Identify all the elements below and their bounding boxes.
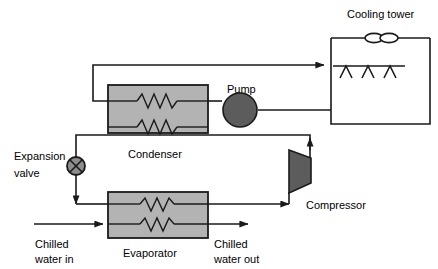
chilled-water-out-label-line2: water out <box>213 253 259 265</box>
cooling-tower-body <box>331 38 430 124</box>
condenser <box>108 85 208 134</box>
chilled-water-out-label-line1: Chilled <box>214 238 248 250</box>
expansion-valve-label-line1: Expansion <box>14 150 65 162</box>
cooling-tower-label: Cooling tower <box>347 8 415 20</box>
pump-symbol <box>223 93 257 127</box>
pump <box>223 93 257 127</box>
cooling-tower-fan-icon <box>365 33 398 42</box>
condenser-label: Condenser <box>128 148 182 160</box>
cooling-tower <box>331 33 430 124</box>
diagram-canvas: Cooling tower Pump Condenser Expansion v… <box>0 0 438 269</box>
refrigerant-suction-line <box>208 192 289 204</box>
refrigeration-cycle-diagram: Cooling tower Pump Condenser Expansion v… <box>0 0 438 269</box>
refrigerant-liquid-line <box>76 135 115 157</box>
cooling-tower-spray-nozzles-icon <box>340 66 396 78</box>
compressor <box>289 150 311 193</box>
chilled-water-in-label-line1: Chilled <box>35 238 69 250</box>
condenser-body <box>108 85 208 133</box>
evaporator-label: Evaporator <box>123 247 177 259</box>
compressor-label: Compressor <box>306 199 366 211</box>
refrigerant-expansion-line <box>76 175 108 204</box>
chilled-water-in-label-line2: water in <box>34 253 74 265</box>
evaporator <box>108 192 208 238</box>
compressor-symbol <box>289 150 311 193</box>
expansion-valve <box>67 157 85 175</box>
expansion-valve-label-line2: valve <box>14 167 40 179</box>
pump-label: Pump <box>227 83 256 95</box>
